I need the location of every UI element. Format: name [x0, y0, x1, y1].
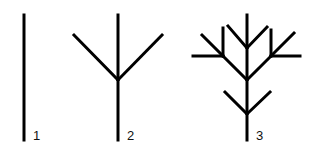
stage-3-figure: [193, 15, 300, 140]
stage-1-label: 1: [33, 129, 40, 142]
branch-segment: [228, 26, 247, 48]
stage-2-figure: [74, 15, 162, 140]
branch-segment: [118, 35, 162, 80]
branch-segment: [202, 35, 223, 56]
branch-segment: [247, 56, 271, 80]
branch-segment: [225, 92, 247, 114]
stage-2-label: 2: [127, 129, 134, 142]
branch-segment: [74, 35, 118, 80]
stage-3-label: 3: [256, 129, 263, 142]
branch-segment: [247, 27, 267, 48]
branch-segment: [223, 56, 247, 80]
tree-diagram: [0, 0, 320, 152]
branch-segment: [271, 33, 294, 56]
branch-segment: [247, 92, 270, 114]
